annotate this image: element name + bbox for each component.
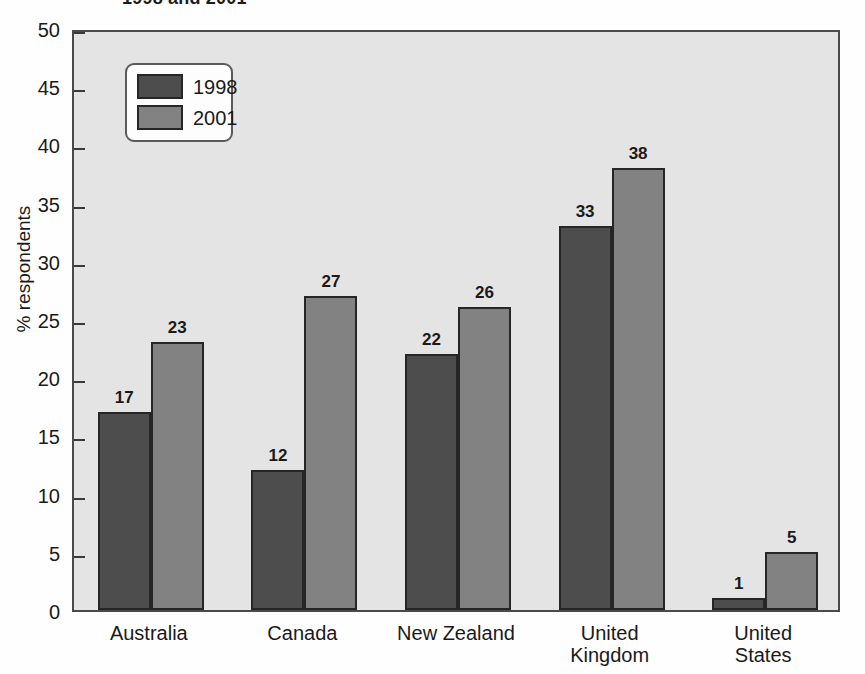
- y-tick-20: [74, 381, 85, 383]
- chart-legend: 1998 2001: [125, 63, 233, 142]
- y-tick-45: [74, 90, 85, 92]
- y-tick-label-25: 25: [12, 311, 60, 331]
- legend-label-1998: 1998: [193, 77, 238, 97]
- y-tick-35: [74, 207, 85, 209]
- y-tick-5: [74, 556, 85, 558]
- bar-1998-united-kingdom[interactable]: [559, 226, 612, 610]
- y-tick-25: [74, 323, 85, 325]
- y-tick-label-30: 30: [12, 253, 60, 273]
- bar-value-label: 17: [98, 389, 151, 406]
- bar-2001-australia[interactable]: [151, 342, 204, 610]
- bar-value-label: 33: [559, 203, 612, 220]
- y-tick-label-10: 10: [12, 486, 60, 506]
- legend-item-1998[interactable]: 1998: [137, 74, 221, 99]
- bar-2001-united-kingdom[interactable]: [612, 168, 665, 610]
- bar-value-label: 27: [304, 273, 357, 290]
- x-tick-label-australia: Australia: [72, 622, 226, 644]
- y-tick-10: [74, 498, 85, 500]
- y-tick-label-50: 50: [12, 20, 60, 40]
- y-tick-30: [74, 265, 85, 267]
- bar-1998-canada[interactable]: [251, 470, 304, 610]
- bar-2001-united-states[interactable]: [765, 552, 818, 610]
- legend-label-2001: 2001: [193, 108, 238, 128]
- bar-1998-new-zealand[interactable]: [405, 354, 458, 610]
- bar-value-label: 12: [251, 447, 304, 464]
- legend-swatch-2001-icon: [137, 105, 183, 130]
- bar-value-label: 22: [405, 331, 458, 348]
- bar-value-label: 5: [765, 529, 818, 546]
- bar-value-label: 26: [458, 284, 511, 301]
- y-tick-50: [74, 32, 85, 34]
- x-tick-label-canada: Canada: [226, 622, 380, 644]
- bar-2001-new-zealand[interactable]: [458, 307, 511, 610]
- y-tick-label-20: 20: [12, 369, 60, 389]
- bar-value-label: 1: [712, 575, 765, 592]
- bar-value-label: 23: [151, 319, 204, 336]
- y-tick-label-15: 15: [12, 427, 60, 447]
- y-tick-label-40: 40: [12, 136, 60, 156]
- legend-swatch-1998-icon: [137, 74, 183, 99]
- bar-value-label: 38: [612, 145, 665, 162]
- x-tick-label-new-zealand: New Zealand: [379, 622, 533, 644]
- x-tick-label-united-kingdom: United Kingdom: [533, 622, 687, 667]
- y-tick-40: [74, 148, 85, 150]
- chart-title: 1998 and 2001: [122, 0, 247, 9]
- bar-1998-united-states[interactable]: [712, 598, 765, 610]
- bar-1998-australia[interactable]: [98, 412, 151, 610]
- bar-2001-canada[interactable]: [304, 296, 357, 610]
- y-tick-label-45: 45: [12, 78, 60, 98]
- x-tick-label-united-states: United States: [686, 622, 840, 667]
- y-tick-15: [74, 439, 85, 441]
- y-tick-label-0: 0: [12, 602, 60, 622]
- legend-item-2001[interactable]: 2001: [137, 105, 221, 130]
- y-tick-label-35: 35: [12, 195, 60, 215]
- y-tick-label-5: 5: [12, 544, 60, 564]
